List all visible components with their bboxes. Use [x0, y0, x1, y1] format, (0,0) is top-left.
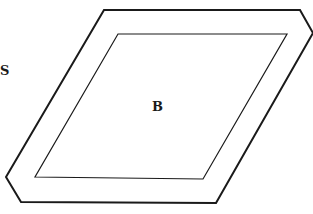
label-s: S	[0, 64, 9, 77]
label-b: B	[152, 100, 163, 113]
